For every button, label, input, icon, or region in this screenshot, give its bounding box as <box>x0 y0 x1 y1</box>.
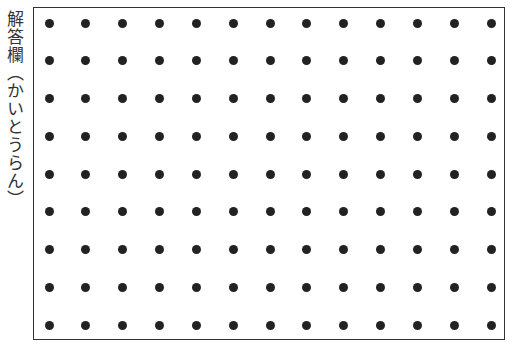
grid-dot <box>192 283 201 292</box>
grid-dot <box>45 321 54 330</box>
grid-dot <box>229 170 238 179</box>
grid-dot <box>487 170 496 179</box>
grid-dot <box>81 207 90 216</box>
grid-dot <box>229 207 238 216</box>
grid-dot <box>413 207 422 216</box>
grid-dot <box>81 19 90 28</box>
grid-dot <box>302 94 311 103</box>
grid-dot <box>155 94 164 103</box>
grid-dot <box>302 207 311 216</box>
grid-dot <box>192 94 201 103</box>
grid-dot <box>302 283 311 292</box>
grid-dot <box>118 56 127 65</box>
grid-dot <box>229 132 238 141</box>
grid-dot <box>229 94 238 103</box>
grid-dot <box>81 132 90 141</box>
grid-dot <box>118 283 127 292</box>
grid-dot <box>155 170 164 179</box>
grid-dot <box>487 283 496 292</box>
grid-dot <box>155 321 164 330</box>
grid-dot <box>229 321 238 330</box>
grid-dot <box>45 56 54 65</box>
grid-dot <box>155 245 164 254</box>
grid-dot <box>118 170 127 179</box>
grid-dot <box>413 56 422 65</box>
grid-dot <box>45 94 54 103</box>
grid-dot <box>450 170 459 179</box>
grid-dot <box>376 170 385 179</box>
grid-dot <box>118 321 127 330</box>
grid-dot <box>118 245 127 254</box>
grid-dot <box>302 245 311 254</box>
grid-dot <box>450 19 459 28</box>
grid-dot <box>450 132 459 141</box>
grid-dot <box>118 207 127 216</box>
grid-dot <box>339 321 348 330</box>
grid-dot <box>376 207 385 216</box>
grid-dot <box>266 207 275 216</box>
grid-dot <box>192 170 201 179</box>
grid-dot <box>81 321 90 330</box>
grid-dot <box>45 132 54 141</box>
grid-dot <box>339 245 348 254</box>
grid-dot <box>376 94 385 103</box>
grid-dot <box>81 283 90 292</box>
grid-dot <box>376 321 385 330</box>
grid-dot <box>413 94 422 103</box>
grid-dot <box>339 207 348 216</box>
grid-dot <box>45 19 54 28</box>
grid-dot <box>266 132 275 141</box>
grid-dot <box>376 132 385 141</box>
grid-dot <box>118 19 127 28</box>
grid-dot <box>229 245 238 254</box>
grid-dot <box>376 56 385 65</box>
grid-dot <box>45 245 54 254</box>
grid-dot <box>192 245 201 254</box>
grid-dot <box>192 19 201 28</box>
grid-dot <box>339 19 348 28</box>
grid-dot <box>266 170 275 179</box>
grid-dot <box>266 321 275 330</box>
grid-dot <box>487 321 496 330</box>
grid-dot <box>45 283 54 292</box>
grid-dot <box>45 207 54 216</box>
grid-dot <box>266 245 275 254</box>
grid-dot <box>302 56 311 65</box>
grid-dot <box>302 170 311 179</box>
dot-grid-answer-box[interactable] <box>33 7 505 340</box>
grid-dot <box>118 94 127 103</box>
grid-dot <box>266 94 275 103</box>
grid-dot <box>266 19 275 28</box>
grid-dot <box>487 207 496 216</box>
grid-dot <box>339 283 348 292</box>
grid-dot <box>229 56 238 65</box>
grid-dot <box>155 132 164 141</box>
grid-dot <box>450 56 459 65</box>
grid-dot <box>487 56 496 65</box>
grid-dot <box>413 132 422 141</box>
grid-dot <box>229 19 238 28</box>
grid-dot <box>450 207 459 216</box>
grid-dot <box>81 245 90 254</box>
grid-dot <box>266 56 275 65</box>
grid-dot <box>487 94 496 103</box>
grid-dot <box>192 56 201 65</box>
grid-dot <box>413 321 422 330</box>
grid-dot <box>192 132 201 141</box>
grid-dot <box>155 207 164 216</box>
grid-dot <box>302 19 311 28</box>
grid-dot <box>413 245 422 254</box>
grid-dot <box>155 19 164 28</box>
grid-dot <box>487 245 496 254</box>
grid-dot <box>192 207 201 216</box>
grid-dot <box>81 94 90 103</box>
grid-dot <box>413 170 422 179</box>
grid-dot <box>339 56 348 65</box>
grid-dot <box>339 170 348 179</box>
grid-dot <box>45 170 54 179</box>
grid-dot <box>339 132 348 141</box>
grid-dot <box>229 283 238 292</box>
grid-dot <box>450 94 459 103</box>
grid-dot <box>413 19 422 28</box>
grid-dot <box>450 283 459 292</box>
